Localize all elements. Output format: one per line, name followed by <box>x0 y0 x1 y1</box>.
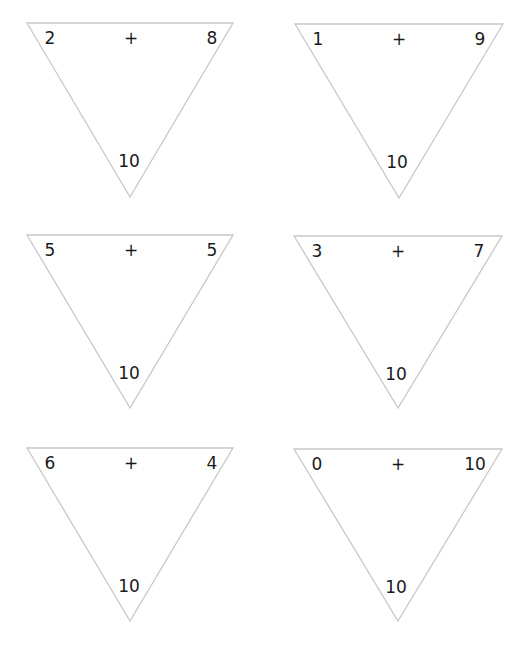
addend-left: 6 <box>35 455 65 472</box>
triangle-outline-icon <box>294 23 504 201</box>
plus-sign: + <box>384 31 414 48</box>
addend-right: 9 <box>465 31 495 48</box>
addend-left: 5 <box>35 242 65 259</box>
sum-value: 10 <box>114 153 144 170</box>
addend-right: 4 <box>197 455 227 472</box>
triangle-outline-icon <box>26 447 236 625</box>
number-triangle-3: 5 + 5 10 <box>26 234 236 412</box>
addend-right: 7 <box>464 243 494 260</box>
triangle-outline-icon <box>293 235 503 413</box>
plus-sign: + <box>383 456 413 473</box>
addend-left: 2 <box>35 30 65 47</box>
number-triangle-4: 3 + 7 10 <box>293 235 503 413</box>
addend-right: 8 <box>197 30 227 47</box>
addend-left: 0 <box>302 456 332 473</box>
triangle-outline-icon <box>293 448 503 626</box>
plus-sign: + <box>383 243 413 260</box>
sum-value: 10 <box>381 366 411 383</box>
number-triangle-6: 0 + 10 10 <box>293 448 503 626</box>
number-triangle-2: 1 + 9 10 <box>294 23 504 201</box>
triangle-outline-icon <box>26 22 236 200</box>
plus-sign: + <box>116 242 146 259</box>
triangle-outline-icon <box>26 234 236 412</box>
plus-sign: + <box>116 455 146 472</box>
sum-value: 10 <box>381 579 411 596</box>
sum-value: 10 <box>382 154 412 171</box>
sum-value: 10 <box>114 365 144 382</box>
addend-right: 10 <box>460 456 490 473</box>
number-bond-worksheet: 2 + 8 10 1 + 9 10 5 + 5 10 3 + 7 10 <box>0 0 529 659</box>
plus-sign: + <box>116 30 146 47</box>
sum-value: 10 <box>114 578 144 595</box>
number-triangle-5: 6 + 4 10 <box>26 447 236 625</box>
addend-right: 5 <box>197 242 227 259</box>
addend-left: 3 <box>302 243 332 260</box>
number-triangle-1: 2 + 8 10 <box>26 22 236 200</box>
addend-left: 1 <box>303 31 333 48</box>
